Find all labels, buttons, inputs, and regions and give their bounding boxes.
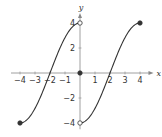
closed-point: [78, 71, 82, 75]
chart: −4−3−2−1123442−2−4xy: [0, 0, 161, 137]
x-tick-label: 1: [92, 76, 97, 85]
y-tick-label: −2: [63, 94, 75, 103]
y-tick-label: 4: [70, 19, 75, 28]
closed-point: [138, 21, 142, 25]
y-tick-label: −4: [63, 119, 75, 128]
y-tick-label: 2: [70, 44, 75, 53]
x-tick-label: 2: [107, 76, 112, 85]
y-axis-label: y: [78, 3, 84, 12]
x-axis-label: x: [157, 69, 162, 78]
x-tick-label: 4: [137, 76, 142, 85]
x-tick-label: −2: [44, 76, 56, 85]
y-axis-arrow: [78, 13, 82, 18]
open-point: [78, 121, 82, 125]
closed-point: [18, 121, 22, 125]
x-tick-label: −3: [29, 76, 41, 85]
x-tick-label: −1: [59, 76, 71, 85]
x-tick-label: −4: [14, 76, 26, 85]
open-point: [78, 21, 82, 25]
x-axis-arrow: [149, 71, 154, 75]
x-tick-label: 3: [122, 76, 127, 85]
